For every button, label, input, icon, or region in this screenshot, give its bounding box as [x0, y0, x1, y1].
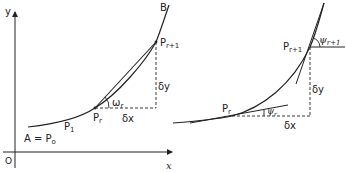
chord-pr-pr1	[95, 42, 156, 108]
point-pr-dot	[94, 107, 97, 110]
origin-label: O	[5, 156, 12, 166]
curve-right	[173, 3, 324, 123]
x-axis-label: x	[166, 160, 172, 171]
label-pr-right: Pr	[222, 103, 231, 116]
label-a-p0: A = Po	[24, 133, 56, 146]
left-panel: y x O B Pr+1 δy ωr δx Pr P1 A = Po	[3, 2, 179, 171]
label-psi-r1: ψr+1	[319, 34, 341, 47]
label-pr1: Pr+1	[160, 37, 179, 50]
label-psi-r: ψr	[267, 106, 278, 117]
curve-approximation-diagram: y x O B Pr+1 δy ωr δx Pr P1 A = Po Pr+1 …	[0, 0, 346, 173]
curve-ab	[28, 5, 169, 127]
label-dy: δy	[158, 81, 170, 92]
right-panel: Pr+1 ψr+1 δy Pr ψr δx	[173, 3, 345, 131]
label-p1: P1	[64, 121, 75, 134]
y-axis-label: y	[5, 6, 11, 17]
point-pr1-dot	[155, 41, 158, 44]
label-pr: Pr	[93, 112, 102, 125]
label-dx: δx	[122, 113, 134, 124]
label-dx-right: δx	[284, 120, 296, 131]
label-pr1-right: Pr+1	[283, 41, 302, 54]
label-dy-right: δy	[312, 84, 324, 95]
label-b: B	[160, 2, 167, 13]
